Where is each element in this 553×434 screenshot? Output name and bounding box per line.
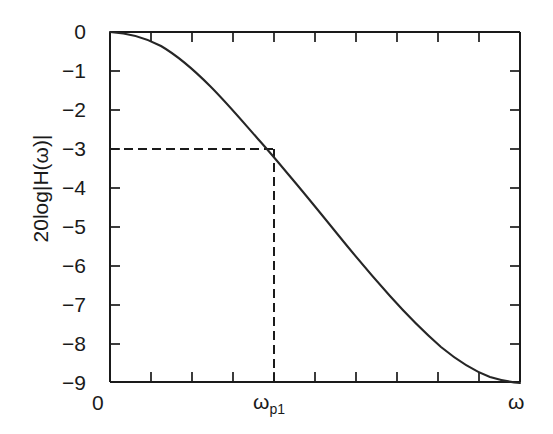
cutoff-annotation: [110, 149, 274, 382]
figure-container: 20log|H(ω)| 0 −1 −2 −3 −4 −5 −6 −7 −8 −9…: [0, 0, 553, 434]
plot-area: [0, 0, 553, 434]
magnitude-response-curve: [110, 32, 520, 383]
